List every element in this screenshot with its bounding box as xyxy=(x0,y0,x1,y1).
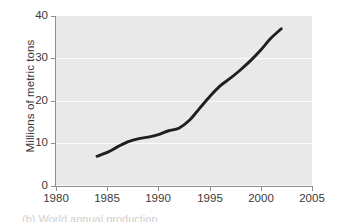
x-tick-label-1995: 1995 xyxy=(188,192,232,204)
plot-area xyxy=(56,16,312,186)
y-tick-label-0: 0 xyxy=(8,179,48,191)
figure-caption: (b) World annual production xyxy=(22,213,322,222)
y-tick-30 xyxy=(51,58,55,59)
x-tick-1985 xyxy=(107,187,108,191)
y-tick-label-30: 30 xyxy=(8,51,48,63)
y-tick-40 xyxy=(51,16,55,17)
gridline-10 xyxy=(56,143,312,144)
y-tick-label-40: 40 xyxy=(8,9,48,21)
x-tick-1995 xyxy=(210,187,211,191)
x-axis-line xyxy=(55,186,313,187)
x-tick-label-1980: 1980 xyxy=(34,192,78,204)
y-tick-10 xyxy=(51,143,55,144)
line-chart-figure: Millions of metric tons 40 30 20 10 0 19… xyxy=(0,0,337,222)
x-tick-1990 xyxy=(158,187,159,191)
y-tick-label-10: 10 xyxy=(8,136,48,148)
x-tick-2005 xyxy=(312,187,313,191)
x-tick-label-2005: 2005 xyxy=(290,192,334,204)
x-tick-label-1990: 1990 xyxy=(136,192,180,204)
y-tick-label-20: 20 xyxy=(8,94,48,106)
gridline-30 xyxy=(56,58,312,59)
x-tick-label-1985: 1985 xyxy=(85,192,129,204)
x-tick-1980 xyxy=(56,187,57,191)
y-tick-0 xyxy=(51,186,55,187)
y-axis-line xyxy=(55,16,56,187)
x-tick-label-2000: 2000 xyxy=(239,192,283,204)
gridline-20 xyxy=(56,101,312,102)
y-tick-20 xyxy=(51,101,55,102)
x-tick-2000 xyxy=(261,187,262,191)
